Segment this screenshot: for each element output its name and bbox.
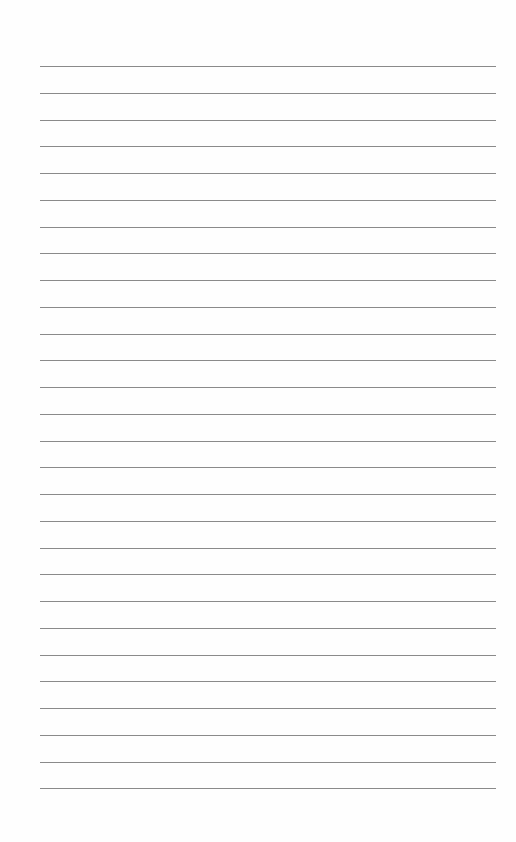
ruled-line (40, 146, 496, 147)
ruled-line (40, 494, 496, 495)
ruled-line (40, 307, 496, 308)
ruled-line (40, 387, 496, 388)
ruled-line (40, 655, 496, 656)
ruled-line (40, 441, 496, 442)
ruled-line (40, 548, 496, 549)
lined-paper-page (0, 0, 516, 842)
ruled-line (40, 601, 496, 602)
ruled-line (40, 708, 496, 709)
ruled-line (40, 173, 496, 174)
ruled-line (40, 253, 496, 254)
ruled-line (40, 628, 496, 629)
ruled-line (40, 414, 496, 415)
ruled-line (40, 681, 496, 682)
ruled-line (40, 334, 496, 335)
ruled-line (40, 120, 496, 121)
ruled-line (40, 200, 496, 201)
ruled-line (40, 66, 496, 67)
ruled-line (40, 360, 496, 361)
ruled-line (40, 735, 496, 736)
ruled-line (40, 762, 496, 763)
ruled-line (40, 788, 496, 789)
ruled-line (40, 280, 496, 281)
ruled-line (40, 574, 496, 575)
ruled-line (40, 93, 496, 94)
ruled-line (40, 467, 496, 468)
ruled-line (40, 521, 496, 522)
ruled-line (40, 227, 496, 228)
